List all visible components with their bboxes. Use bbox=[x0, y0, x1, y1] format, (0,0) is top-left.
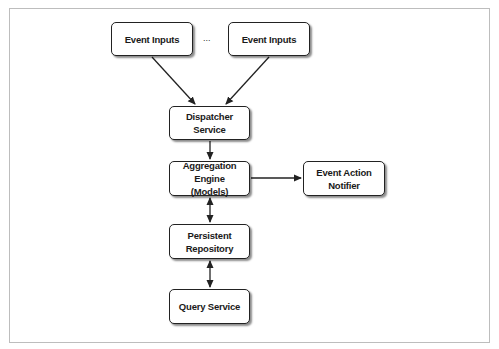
node-event-action-notifier: Event Action Notifier bbox=[303, 161, 385, 196]
edge-event-inputs-1-to-dispatcher bbox=[152, 57, 195, 104]
node-aggregation-engine: Aggregation Engine (Models) bbox=[169, 161, 250, 196]
node-label: Persistent Repository bbox=[170, 229, 249, 255]
node-label: Event Inputs bbox=[125, 33, 180, 46]
node-dispatcher-service: Dispatcher Service bbox=[169, 106, 250, 140]
node-event-inputs-2: Event Inputs bbox=[228, 22, 310, 56]
edge-event-inputs-2-to-dispatcher bbox=[226, 57, 269, 104]
node-label: Query Service bbox=[179, 300, 240, 313]
node-label: Aggregation Engine (Models) bbox=[170, 159, 249, 198]
node-query-service: Query Service bbox=[169, 289, 250, 324]
node-label: Dispatcher Service bbox=[170, 110, 249, 136]
node-label: Event Action Notifier bbox=[316, 166, 371, 192]
node-label: Event Inputs bbox=[242, 33, 297, 46]
ellipsis: ... bbox=[203, 33, 211, 43]
node-persistent-repository: Persistent Repository bbox=[169, 224, 250, 259]
node-event-inputs-1: Event Inputs bbox=[111, 22, 193, 56]
